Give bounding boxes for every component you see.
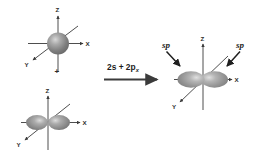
axis-label-x-2px: X bbox=[83, 119, 88, 126]
sp-label-right: sp bbox=[235, 40, 245, 50]
axis-label-y-sp: Y bbox=[172, 103, 177, 110]
axis-label-y-2px: Y bbox=[17, 141, 22, 148]
orbital-sp-group: Z X Y sp sp bbox=[161, 35, 245, 110]
axis-label-z-2px: Z bbox=[46, 87, 50, 94]
reaction-label-text: 2s + 2p bbox=[107, 62, 136, 72]
orbital-sp-lobe-right bbox=[201, 71, 228, 87]
sp-label-left: sp bbox=[161, 40, 171, 50]
reaction-group: 2s + 2px bbox=[104, 62, 157, 80]
orbital-2s-group: Z X Y bbox=[25, 6, 91, 72]
axis-label-z-sp: Z bbox=[201, 35, 205, 42]
axis-label-x-sp: X bbox=[235, 76, 240, 83]
axis-label-x-2s: X bbox=[86, 40, 91, 47]
orbital-2px-group: Z X Y bbox=[17, 87, 88, 150]
orbital-2s-sphere bbox=[47, 33, 69, 55]
sp-pointer-left bbox=[167, 52, 181, 67]
axis-label-y-2s: Y bbox=[25, 61, 30, 68]
plus-sign: + bbox=[55, 67, 60, 76]
figure-canvas: Z X Y + Z X Y 2s + 2px bbox=[0, 0, 262, 160]
reaction-label-subscript: x bbox=[135, 67, 140, 73]
orbital-2px-lobe-right bbox=[48, 115, 70, 130]
sp-pointer-right bbox=[227, 52, 240, 67]
orbital-sp-lobe-left bbox=[178, 71, 205, 87]
orbital-hybridization-figure: Z X Y + Z X Y 2s + 2px bbox=[0, 0, 262, 160]
reaction-label: 2s + 2px bbox=[107, 62, 140, 73]
axis-label-z-2s: Z bbox=[56, 6, 60, 13]
orbital-2px-lobe-left bbox=[26, 115, 48, 130]
